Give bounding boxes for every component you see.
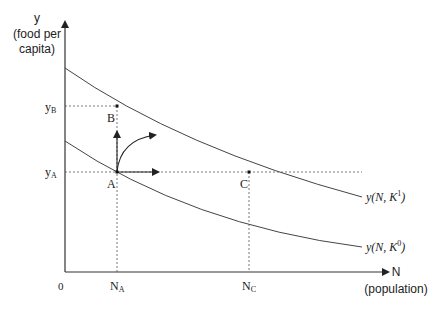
y-axis-label: y	[34, 11, 40, 25]
point-b	[116, 105, 119, 108]
curve-lower-k0	[65, 141, 362, 247]
x-axis-label: N	[392, 265, 401, 279]
y-axis-sublabel-2: capita)	[19, 42, 55, 56]
arrow-curved	[117, 135, 155, 172]
x-tick-nc: NC	[242, 279, 256, 294]
curve-label-k1: y(N, K1)	[365, 189, 405, 204]
y-axis-sublabel-1: (food per	[13, 27, 61, 41]
label-c: C	[240, 177, 248, 191]
x-tick-na: NA	[110, 279, 125, 294]
y-tick-yb: yB	[45, 100, 56, 115]
curve-label-k0: y(N, K0)	[365, 239, 405, 254]
point-a	[116, 171, 119, 174]
x-axis-sublabel: (population)	[364, 282, 427, 296]
origin-label: 0	[58, 280, 64, 292]
label-b: B	[107, 111, 115, 125]
y-tick-ya: yA	[45, 165, 57, 180]
point-c	[248, 171, 251, 174]
label-a: A	[107, 177, 116, 191]
diagram-canvas: y (food per capita) yB yA B A C 0 NA NC …	[0, 0, 441, 313]
